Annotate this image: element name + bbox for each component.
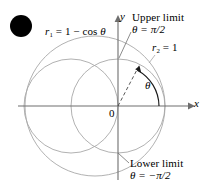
curve-r2-label-eq: = 1 [160, 41, 178, 53]
lower-limit-value: θ = −π/2 [130, 170, 171, 182]
theta-angle-label: θ [145, 80, 151, 92]
lower-limit-leader [118, 153, 129, 163]
curve-r1-label-theta: θ [100, 25, 106, 37]
y-axis-label: y [120, 11, 125, 23]
x-axis-label: x [194, 98, 199, 110]
origin-label: 0 [109, 108, 115, 120]
theta-ray-dashed [118, 64, 140, 106]
upper-limit-value: θ = π/2 [132, 24, 165, 36]
curve-r1-label-eq: = 1 − cos [53, 25, 100, 37]
bullet-marker-dot [10, 15, 32, 37]
curve-r1-label: r1 = 1 − cos θ [45, 26, 106, 38]
r2-leader [149, 55, 155, 63]
curve-r2-label: r2 = 1 [152, 42, 178, 54]
lower-limit-title: Lower limit [130, 158, 183, 170]
upper-limit-title: Upper limit [132, 12, 184, 24]
